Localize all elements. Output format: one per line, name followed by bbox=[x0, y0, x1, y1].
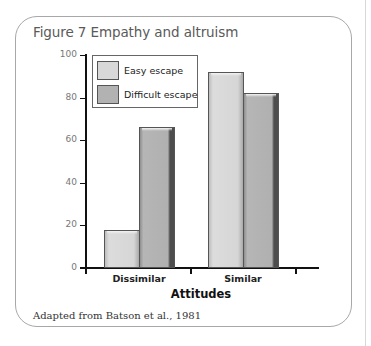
bar-dissimilar-easy-escape bbox=[104, 230, 140, 268]
x-tick bbox=[85, 268, 87, 274]
legend-swatch-easy-icon bbox=[97, 61, 119, 80]
y-tick-label: 20 bbox=[47, 219, 77, 229]
legend-label: Easy escape bbox=[124, 65, 183, 76]
bar-chart: Percent of participants helping 0 20 40 … bbox=[0, 0, 371, 346]
legend-swatch-difficult-icon bbox=[97, 85, 119, 104]
y-tick-40 bbox=[80, 183, 86, 184]
x-tick bbox=[190, 268, 192, 274]
y-tick-80 bbox=[80, 98, 86, 99]
y-tick-20 bbox=[80, 225, 86, 226]
y-axis-line bbox=[85, 54, 87, 269]
y-tick-label: 80 bbox=[47, 92, 77, 102]
x-category-label: Similar bbox=[224, 273, 262, 284]
bar-similar-easy-escape bbox=[208, 72, 244, 268]
y-tick-label: 0 bbox=[47, 262, 77, 272]
x-axis-title: Attitudes bbox=[171, 287, 231, 301]
y-tick-60 bbox=[80, 140, 86, 141]
x-category-label: Dissimilar bbox=[112, 273, 165, 284]
legend-label: Difficult escape bbox=[124, 89, 197, 100]
chart-legend: Easy escape Difficult escape bbox=[92, 55, 198, 108]
y-tick-label: 100 bbox=[47, 49, 77, 59]
figure-source-caption: Adapted from Batson et al., 1981 bbox=[33, 310, 201, 321]
y-tick-100 bbox=[80, 55, 86, 56]
y-tick-label: 40 bbox=[47, 177, 77, 187]
x-tick bbox=[295, 268, 297, 274]
bar-dissimilar-difficult-escape bbox=[139, 127, 175, 268]
legend-item-difficult-escape: Difficult escape bbox=[97, 84, 197, 104]
bar-similar-difficult-escape bbox=[243, 93, 279, 268]
legend-item-easy-escape: Easy escape bbox=[97, 60, 183, 80]
y-tick-label: 60 bbox=[47, 134, 77, 144]
